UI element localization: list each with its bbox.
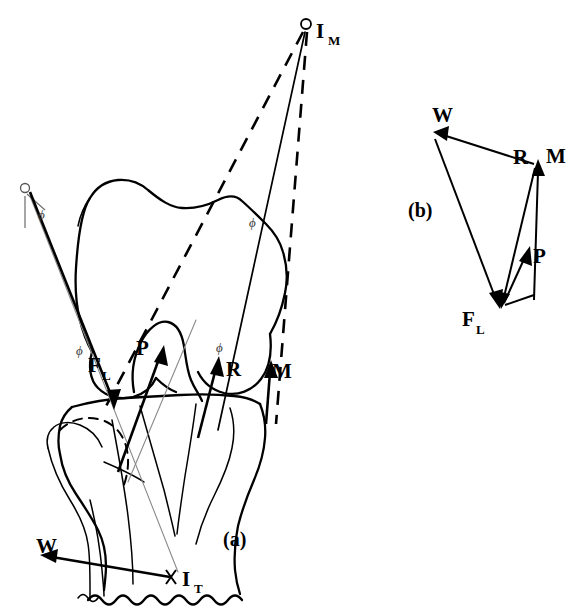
angle-marker-phi-3: ϕ: [216, 340, 223, 355]
dashed-line-to-FL: [103, 32, 303, 412]
label-FL-main: F: [88, 353, 101, 377]
label-b-M: M: [546, 144, 566, 168]
panel-a-caption: (a): [223, 528, 246, 551]
tibial-plateau: [72, 394, 260, 407]
polygon-edge-FL-to-R: [496, 168, 535, 309]
label-R: R: [226, 357, 242, 381]
angle-marker-phi-4: ϕ: [249, 215, 256, 230]
edge-R-to-W-arrowhead: [433, 126, 449, 141]
polygon-edge-M: [532, 159, 545, 300]
tibia-shaft-left: [60, 454, 106, 590]
IM-marker-circle: [301, 19, 311, 29]
tibia-striation-b: [90, 500, 104, 596]
label-M: M: [272, 359, 292, 383]
label-b-FL-main: F: [462, 307, 475, 331]
panel-b-labels: W R M P F L (b): [408, 103, 566, 337]
tibia-right-border: [235, 404, 266, 594]
label-b-FL-sub: L: [476, 322, 485, 337]
label-FL-sub: L: [102, 368, 111, 383]
figure-root: I M I T F L P R M W ϕ ϕ ϕ ϕ (a): [0, 0, 587, 616]
panel-a-force-vectors: [30, 19, 311, 584]
panel-a-anatomy: [47, 180, 286, 605]
trochlear-groove: [156, 378, 176, 392]
fibula-outline: [48, 448, 90, 600]
polygon-edge-FL-to-M: [505, 295, 534, 305]
label-IT-main: I: [182, 567, 190, 591]
tibia-cut-wavy-edge: [88, 596, 242, 605]
femur-outline: [76, 180, 287, 352]
label-P: P: [136, 336, 149, 360]
panel-b-force-polygon: [433, 126, 545, 309]
vector-P: [118, 345, 168, 472]
label-b-R: R: [513, 145, 529, 169]
label-b-W: W: [432, 103, 453, 127]
tibia-striation-a: [112, 420, 133, 584]
panel-a-labels: I M I T F L P R M W ϕ ϕ ϕ ϕ (a): [36, 19, 340, 596]
intercondylar-line-left: [140, 406, 175, 536]
label-IM-sub: M: [328, 33, 340, 48]
label-b-P: P: [533, 244, 546, 268]
angle-marker-phi-1: ϕ: [38, 207, 45, 222]
label-W: W: [36, 534, 57, 558]
vector-R-arrowhead: [210, 356, 224, 377]
polygon-edge-W-to-FL: [435, 139, 503, 309]
vector-P-arrowhead: [154, 345, 168, 366]
vector-R: [198, 356, 224, 438]
polygon-edge-P: [504, 246, 532, 303]
intercondylar-line-right: [177, 404, 196, 534]
knee-force-figure: I M I T F L P R M W ϕ ϕ ϕ ϕ (a): [0, 0, 587, 616]
fibula-head: [47, 423, 102, 448]
label-IT-sub: T: [194, 581, 203, 596]
edge-P-arrowhead: [519, 246, 532, 266]
femur-mechanical-axis: [30, 196, 178, 572]
label-IM-main: I: [316, 19, 324, 43]
tibial-tuberosity: [104, 462, 144, 482]
angle-marker-phi-2: ϕ: [76, 343, 83, 358]
panel-b-caption: (b): [408, 199, 432, 222]
